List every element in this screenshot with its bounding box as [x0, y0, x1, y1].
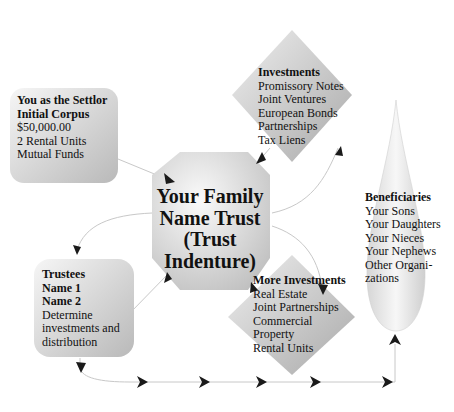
- trustees-item: investments and: [42, 322, 120, 336]
- connector-trust-to-trustees: [77, 213, 152, 250]
- investments-item: Tax Liens: [258, 134, 344, 148]
- arrowhead-icon: [335, 146, 343, 156]
- beneficiaries-item: Other Organi-: [365, 259, 441, 273]
- beneficiaries-item: Your Nephews: [365, 245, 441, 259]
- investments-text: Investments Promissory Notes Joint Ventu…: [258, 66, 344, 147]
- arrowhead-icon: [389, 334, 401, 345]
- more-investments-item: Rental Units: [253, 342, 346, 356]
- trustees-text: Trustees Name 1 Name 2 Determine investm…: [42, 268, 120, 349]
- arrowhead-icon: [73, 245, 81, 255]
- beneficiaries-item: Your Daughters: [365, 218, 441, 232]
- connector-trust-to-investments: [272, 148, 338, 213]
- settlor-text: You as the Settlor Initial Corpus $50,00…: [17, 94, 107, 162]
- more-investments-item: Property: [253, 328, 346, 342]
- trust-title: Your Family Name Trust (Trust Indenture): [150, 186, 270, 272]
- beneficiaries-item: zations: [365, 272, 441, 286]
- trustees-item: distribution: [42, 336, 120, 350]
- beneficiaries-item: Your Nieces: [365, 232, 441, 246]
- beneficiaries-text: Beneficiaries Your Sons Your Daughters Y…: [365, 191, 441, 286]
- trustee-name: Name 2: [42, 295, 120, 309]
- beneficiaries-title: Beneficiaries: [365, 191, 441, 205]
- connector-trustees-to-trust: [130, 274, 168, 313]
- investments-title: Investments: [258, 66, 344, 80]
- trustee-name: Name 1: [42, 282, 120, 296]
- settlor-item: 2 Rental Units: [17, 135, 107, 149]
- more-investments-title: More Investments: [253, 274, 346, 288]
- arrowhead-icon: [76, 362, 86, 373]
- trustees-item: Determine: [42, 309, 120, 323]
- settlor-title: You as the Settlor: [17, 94, 107, 108]
- settlor-subtitle: Initial Corpus: [17, 108, 107, 122]
- more-investments-item: Commercial: [253, 315, 346, 329]
- beneficiaries-item: Your Sons: [365, 205, 441, 219]
- investments-item: Joint Ventures: [258, 93, 344, 107]
- investments-item: Promissory Notes: [258, 80, 344, 94]
- investments-item: Partnerships: [258, 120, 344, 134]
- settlor-item: Mutual Funds: [17, 148, 107, 162]
- trustees-title: Trustees: [42, 268, 120, 282]
- more-investments-item: Joint Partnerships: [253, 301, 346, 315]
- settlor-item: $50,000.00: [17, 121, 107, 135]
- more-investments-text: More Investments Real Estate Joint Partn…: [253, 274, 346, 355]
- investments-item: European Bonds: [258, 107, 344, 121]
- more-investments-item: Real Estate: [253, 288, 346, 302]
